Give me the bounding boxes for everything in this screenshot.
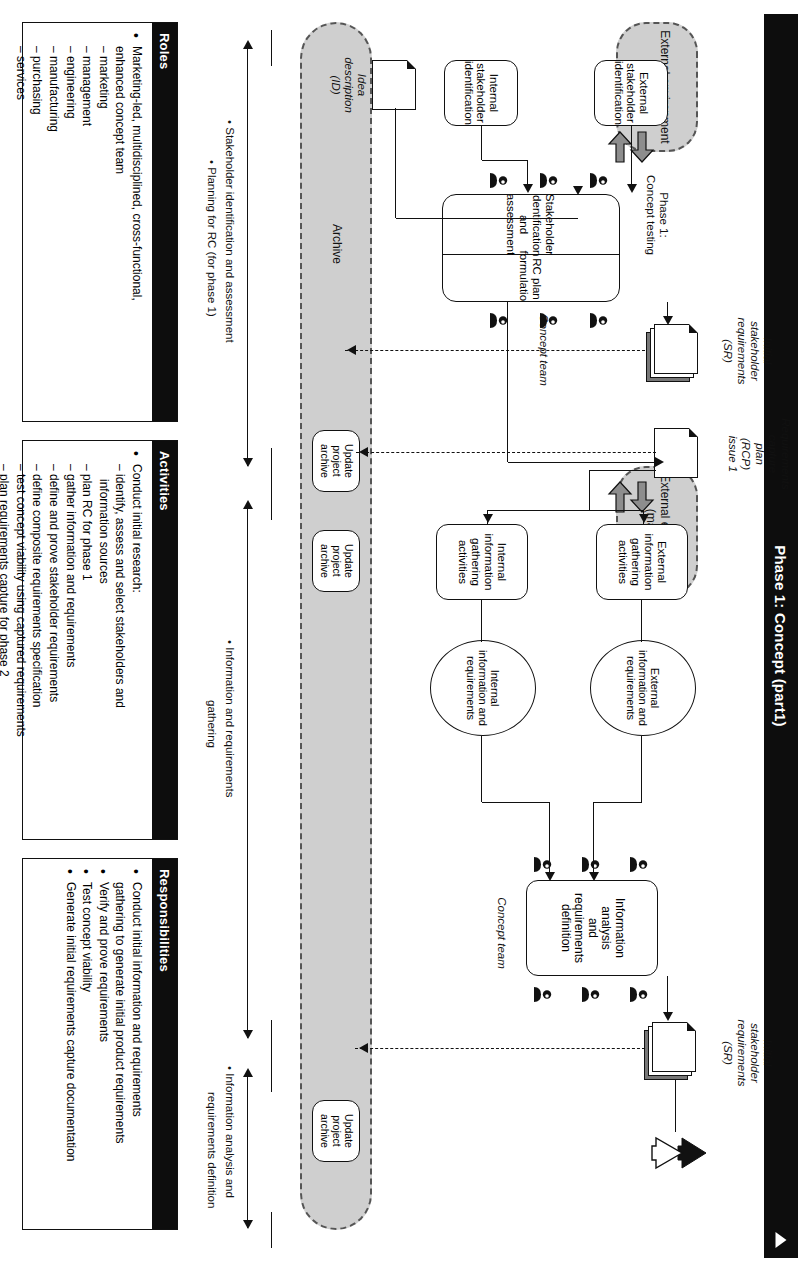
list-item: enhanced concept team [112,33,128,411]
list-item: Test concept viability [79,869,95,1219]
internal-stakeholder-identification-box[interactable]: Internal stakeholder identification [444,60,518,126]
external-stakeholder-identification-label: External stakeholder identification [612,61,651,125]
connector-arrow [347,345,356,355]
person-icon [590,172,608,189]
person-icon [490,172,508,189]
connector-arrow [627,184,637,193]
requirements-capture-plan-document[interactable] [656,428,698,476]
bracket-label-2-line1: • Information and requirements [222,640,236,797]
update-project-archive-1-label: Update project archive [318,444,353,478]
panel-roles: Roles Marketing-led, multidisciplined, c… [22,22,178,422]
internal-information-and-requirements-oval[interactable]: Internal information and requirements [430,640,536,736]
bracket-tick [271,1020,272,1056]
connector [527,160,528,184]
connector-arrow [655,457,664,467]
person-icon [590,312,608,329]
update-project-archive-3[interactable]: Update project archive [312,1100,360,1162]
rc-plan-formulation-box[interactable]: RC plan formulation [442,255,619,302]
connector [508,462,656,463]
information-analysis-and-requirements-definition-box[interactable]: Information analysis and requirements de… [526,880,658,976]
bracket-label-3-line1: • Stakeholder identification and assessm… [222,120,236,343]
bracket-tick [271,1212,272,1248]
list-item: Conduct initial information and requirem… [128,869,144,1219]
person-icon [534,986,552,1003]
connector [481,736,482,802]
initial-stakeholder-requirements-document-bottom[interactable] [648,324,698,382]
connector [549,802,550,874]
internal-stakeholder-identification-label: Internal stakeholder identification [462,61,501,125]
bracket-arrow [243,1068,253,1077]
connector [589,470,590,510]
internal-information-and-requirements-label: Internal information and requirements [465,650,502,726]
external-information-gathering-activities-box[interactable]: External information gathering activitie… [596,524,688,600]
panel-roles-header: Roles [152,23,177,421]
initial-sr-bottom-label: Initial stakeholder requirements (SR) [721,286,774,416]
list-item: plan requirements capture for phase 2 [0,451,11,829]
page-title: Phase 1: Concept (part1) [773,545,790,727]
person-icon [582,856,600,873]
idea-description-document[interactable] [374,60,416,108]
initial-stakeholder-requirements-document-top[interactable] [646,1022,696,1080]
external-information-and-requirements-oval[interactable]: External information and requirements [590,640,696,736]
list-item: gather information and requirements [62,451,78,829]
list-item: purchasing [29,33,45,411]
connector-arrow [589,872,599,881]
connector [667,976,668,1016]
list-item: information sources [95,451,111,829]
connector [488,510,644,511]
person-icon [582,986,600,1003]
list-item: services [12,33,28,411]
internal-information-gathering-activities-box[interactable]: Internal information gathering activitie… [436,524,528,600]
initial-sr-top-label: Initial stakeholder requirements (SR) [721,988,774,1118]
bracket-arrow [243,1220,253,1229]
list-item: identify, assess and select stakeholders… [112,451,128,829]
panel-activities-list: Conduct initial research:identify, asses… [0,451,144,829]
person-icon [630,856,648,873]
update-project-archive-2[interactable]: Update project archive [312,530,360,592]
panel-responsibilities-list: Conduct initial information and requirem… [62,869,144,1219]
bracket-tick [271,1056,272,1092]
connector-arrow [573,186,583,195]
stakeholder-identification-and-assessment-box[interactable]: Stakeholder identification and assessmen… [442,195,619,255]
bracket-label-3-line2: • Planning for RC (for phase 1) [204,160,218,317]
list-item: Conduct initial research: [128,451,144,829]
rc-plan-formulation-label: RC plan formulation [517,251,543,302]
double-chevron-icon [648,1136,708,1170]
information-analysis-label: Information analysis and requirements de… [558,883,625,973]
bracket-span [247,1076,248,1228]
connector-dashed [345,350,645,351]
internal-information-gathering-activities-label: Internal information gathering activitie… [456,534,508,591]
connector-arrow [663,1012,673,1021]
diagram-canvas: Phase 1: Concept (part1) External enviro… [0,0,808,1272]
bracket-label-2-line2: gathering [204,700,218,748]
list-item: Marketing-led, multidisciplined, cross-f… [128,33,144,411]
bracket-span [247,508,248,1038]
idea-description-label: Idea description (ID) [328,30,368,140]
lane-archive-label: Archive [329,224,343,264]
bracket-arrow [243,1030,253,1039]
person-icon [490,312,508,329]
bracket-label-1-line2: requirements definition [204,1092,218,1208]
bracket-arrow [243,500,253,509]
list-item: test concept viability using captured re… [12,451,28,829]
list-item: plan RC for phase 1 [79,451,95,829]
connector [590,470,656,471]
list-item: marketing [95,33,111,411]
connector-dashed [355,1048,645,1049]
connector-arrow [523,184,533,193]
bracket-arrow [243,40,253,49]
connector [482,802,550,803]
connector [593,802,594,874]
bracket-label-1-line1: • Information analysis and [222,1066,236,1198]
bracket-tick [271,30,272,66]
connector [395,108,396,218]
triangle-marker-icon [776,1232,787,1248]
list-item: Generate initial requirements capture do… [62,869,78,1219]
rcp-label: Requirements capture plan (RCP) issue 1 [726,398,792,510]
external-stakeholder-identification-box[interactable]: External stakeholder identification [594,60,668,126]
update-project-archive-3-label: Update project archive [318,1114,353,1148]
update-project-archive-1[interactable]: Update project archive [312,430,360,492]
update-project-archive-2-label: Update project archive [318,544,353,578]
list-item: define composite requirements specificat… [29,451,45,829]
external-information-gathering-activities-label: External information gathering activitie… [616,534,668,591]
